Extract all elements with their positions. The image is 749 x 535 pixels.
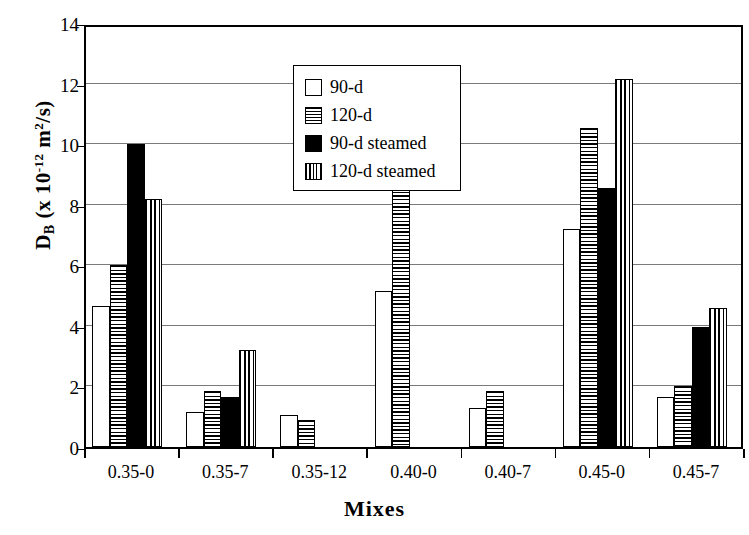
- x-axis-title: Mixes: [0, 496, 749, 522]
- y-axis-title-exponent2: 2: [31, 123, 46, 130]
- y-axis-tick-label: 12: [39, 76, 79, 95]
- y-axis-tick-label: 4: [39, 318, 79, 337]
- bar-0.35-12-90-d: [280, 415, 298, 447]
- y-axis-tick-label: 14: [39, 15, 79, 34]
- legend-swatch-vertical-hatch: [305, 163, 322, 180]
- gridline: [86, 325, 741, 326]
- legend-label: 120-d: [330, 106, 372, 124]
- bar-0.35-7-90-d: [186, 412, 204, 447]
- y-axis-tick-label: 10: [39, 136, 79, 155]
- gridline: [86, 264, 741, 265]
- y-axis-title-tail2: /s): [31, 100, 55, 123]
- y-axis-title-main: D: [31, 234, 55, 250]
- bar-0.35-0-90-d-steamed: [127, 144, 145, 447]
- legend-swatch-solid-black: [305, 135, 322, 152]
- legend-item-120-d: 120-d: [305, 101, 460, 129]
- bar-0.35-0-120-d: [110, 265, 128, 447]
- bar-0.45-7-120-d-steamed: [709, 308, 727, 447]
- legend-item-120-d-steamed: 120-d steamed: [305, 157, 460, 185]
- bar-0.45-7-90-d: [657, 397, 675, 447]
- bar-0.40-0-120-d: [392, 162, 410, 447]
- bar-0.35-7-90-d-steamed: [221, 397, 239, 447]
- bar-0.45-0-120-d: [580, 128, 598, 448]
- legend-swatch-horizontal-hatch: [305, 107, 322, 124]
- legend-swatch-empty: [305, 79, 322, 96]
- x-axis-tick: [743, 449, 745, 458]
- bar-0.35-12-120-d: [298, 420, 316, 447]
- y-axis-title-exponent: -12: [31, 153, 46, 172]
- x-axis-category-label: 0.45-7: [636, 462, 749, 483]
- legend-item-90-d: 90-d: [305, 73, 460, 101]
- bar-0.35-7-120-d: [204, 391, 222, 447]
- bar-0.35-7-120-d-steamed: [239, 350, 257, 447]
- y-axis-tick-label: 2: [39, 378, 79, 397]
- bar-chart-figure: DB (x 10-12 m2/s) 02468101214 90-d120-d9…: [0, 0, 749, 535]
- bar-0.40-7-120-d: [486, 391, 504, 447]
- x-axis-tick: [555, 449, 557, 458]
- legend-label: 90-d steamed: [330, 134, 426, 152]
- x-axis-tick: [461, 449, 463, 458]
- y-axis-title-sub: B: [41, 224, 56, 234]
- bar-0.35-0-90-d: [92, 306, 110, 447]
- plot-area: 90-d120-d90-d steamed120-d steamed: [84, 25, 743, 449]
- x-axis-tick: [178, 449, 180, 458]
- y-axis-tick-label: 0: [39, 439, 79, 458]
- bar-0.45-0-120-d-steamed: [615, 79, 633, 447]
- bar-0.45-0-90-d-steamed: [598, 188, 616, 447]
- legend: 90-d120-d90-d steamed120-d steamed: [293, 65, 461, 191]
- x-axis-tick: [84, 449, 86, 458]
- bar-0.35-0-120-d-steamed: [145, 199, 163, 447]
- bar-0.40-0-90-d: [375, 291, 393, 447]
- legend-item-90-d-steamed: 90-d steamed: [305, 129, 460, 157]
- y-axis-tick-label: 8: [39, 197, 79, 216]
- legend-label: 120-d steamed: [330, 162, 435, 180]
- x-axis-tick: [649, 449, 651, 458]
- y-axis-tick-label: 6: [39, 257, 79, 276]
- x-axis-tick: [272, 449, 274, 458]
- bar-0.45-7-120-d: [674, 386, 692, 447]
- legend-label: 90-d: [330, 78, 363, 96]
- bar-0.40-7-90-d: [469, 408, 487, 447]
- x-axis-tick: [366, 449, 368, 458]
- gridline: [86, 385, 741, 386]
- gridline: [86, 204, 741, 205]
- bar-0.45-0-90-d: [563, 229, 581, 447]
- bar-0.45-7-90-d-steamed: [692, 327, 710, 447]
